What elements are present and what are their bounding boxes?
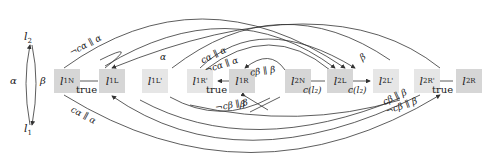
edge-label-true-1: true — [76, 84, 97, 95]
node-l1-Lprime: l1L' — [142, 69, 168, 93]
node-l1: l1 — [24, 122, 32, 137]
diagram-canvas: ll22 l1 α β l1N l1L l1L' l1R' l1R l2N l2… — [0, 0, 490, 167]
edge-label-c-l2-left: c(l₂) — [303, 85, 322, 95]
edge-label-true-3: true — [432, 84, 453, 95]
edge-label-alpha-top: α — [160, 52, 166, 62]
node-l2-R: l2R — [456, 69, 482, 93]
node-l1-L: l1L — [99, 69, 125, 93]
edge-label-alpha: α — [10, 75, 17, 86]
edge-label-c-l2-right: c(l₂) — [348, 85, 367, 95]
edge-label-beta: β — [40, 75, 46, 86]
node-l2: ll22 — [24, 30, 32, 45]
node-l2-Lprime: l2L' — [373, 69, 399, 93]
edge-label-true-2: true — [206, 84, 227, 95]
